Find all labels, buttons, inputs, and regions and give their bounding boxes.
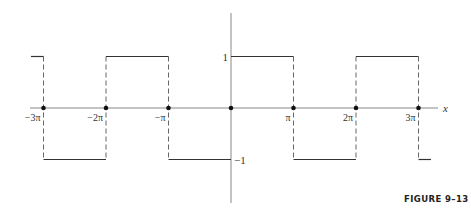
square-wave-figure: x −3π−2π−ππ2π3π1−1 (0, 0, 471, 215)
y-tick-label: 1 (223, 51, 229, 63)
x-tick-label: 2π (343, 112, 353, 123)
x-tick-label: π (285, 112, 290, 123)
figure-caption: FIGURE 9–13 (404, 194, 469, 204)
axis-dot (41, 106, 46, 111)
axis-dot (104, 106, 109, 111)
axes: x (30, 13, 448, 203)
x-tick-label: −3π (25, 112, 41, 123)
x-tick-label: 3π (405, 112, 415, 123)
x-tick-label: −π (155, 112, 166, 123)
axis-dot (291, 106, 296, 111)
axis-dot (166, 106, 171, 111)
x-axis-label: x (442, 102, 448, 114)
axis-dot (229, 106, 234, 111)
axis-dot (354, 106, 359, 111)
x-tick-label: −2π (87, 112, 103, 123)
y-tick-label: −1 (234, 154, 246, 166)
axis-dot (416, 106, 421, 111)
